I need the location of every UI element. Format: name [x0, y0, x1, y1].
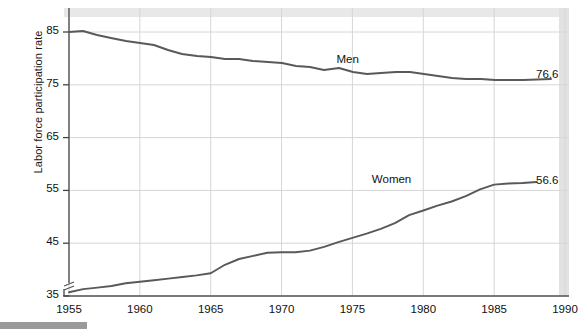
x-tick-label: 1980 — [403, 303, 443, 315]
y-tick-label: 85 — [33, 24, 59, 36]
y-tick-label: 55 — [33, 182, 59, 194]
series-label-men: Men — [336, 53, 358, 65]
x-tick-label: 1975 — [332, 303, 372, 315]
x-tick-label: 1960 — [120, 303, 160, 315]
x-tick-label: 1965 — [191, 303, 231, 315]
end-value-label-women: 56.6 — [536, 174, 558, 186]
y-tick-label: 75 — [33, 77, 59, 89]
y-tick-label: 65 — [33, 130, 59, 142]
chart-figure: Labor force participation rate 354555657… — [0, 0, 586, 332]
y-tick-label: 45 — [33, 235, 59, 247]
y-tick-label: 35 — [33, 288, 59, 300]
x-tick-label: 1990 — [545, 303, 585, 315]
end-value-label-men: 76.6 — [536, 68, 558, 80]
series-label-women: Women — [372, 173, 411, 185]
scan-band-right — [559, 8, 569, 296]
x-tick-label: 1955 — [49, 303, 89, 315]
x-tick-label: 1985 — [474, 303, 514, 315]
chart-plot-area — [0, 0, 586, 332]
scan-artifact-bar — [0, 322, 87, 329]
x-tick-label: 1970 — [262, 303, 302, 315]
